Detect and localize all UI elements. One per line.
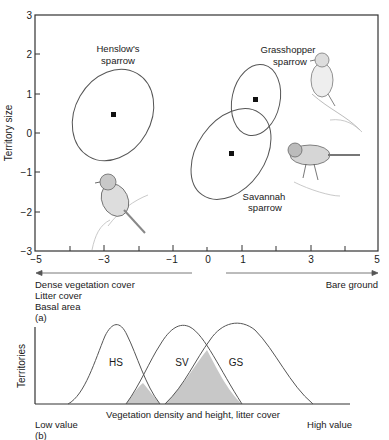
b-x-labels: Vegetation density and height, litter co… (35, 409, 352, 440)
panel-b: HS SV GS Territories Vegetation density … (16, 323, 352, 440)
x-tick-3: 3 (308, 254, 314, 265)
b-y-axis-label: Territories (16, 344, 27, 388)
left-label-3: Basal area (35, 301, 81, 312)
x-tick-m5: −5 (30, 254, 42, 265)
hs-label: HS (109, 357, 123, 368)
x-tick-m3: −3 (98, 254, 110, 265)
henslow-label-1: Henslow's (97, 43, 140, 54)
y-tick-0: 0 (26, 128, 32, 139)
x-tick-1: 1 (240, 254, 246, 265)
gs-label: GS (229, 357, 244, 368)
y-tick-labels: 3 2 1 0 −1 −2 −3 (21, 10, 33, 257)
x-tick-0: 0 (205, 254, 211, 265)
right-arrow-head-icon (372, 271, 378, 276)
panel-b-label: (b) (35, 430, 47, 440)
panel-a-label: (a) (35, 312, 47, 323)
savannah-label-2: sparrow (248, 202, 282, 213)
y-tick-3: 3 (26, 10, 32, 21)
y-axis-label: Territory size (3, 104, 14, 161)
y-tick-m1: −1 (21, 167, 33, 178)
savannah-sparrow-illustration (288, 143, 360, 196)
y-tick-1: 1 (26, 89, 32, 100)
x-tick-m1: −1 (166, 254, 178, 265)
savannah-center-marker (229, 151, 234, 156)
henslows-sparrow-illustration (92, 174, 148, 250)
x-tick-5: 5 (374, 254, 380, 265)
arrow-labels: Dense vegetation cover Litter cover Basa… (35, 279, 378, 323)
left-arrow-head-icon (36, 271, 42, 276)
sv-label: SV (175, 357, 189, 368)
figure: 3 2 1 0 −1 −2 −3 −5 −3 −1 0 1 3 5 Territ… (0, 0, 389, 440)
panel-a: 3 2 1 0 −1 −2 −3 −5 −3 −1 0 1 3 5 Territ… (3, 10, 380, 323)
y-tick-m2: −2 (21, 207, 33, 218)
grasshopper-label-1: Grasshopper (261, 44, 316, 55)
grasshopper-center-marker (253, 97, 258, 102)
right-label-1: Bare ground (326, 279, 378, 290)
species-labels: Henslow's sparrow Grasshopper sparrow Sa… (97, 43, 316, 213)
savannah-label-1: Savannah (243, 191, 286, 202)
left-label-1: Dense vegetation cover (35, 279, 135, 290)
y-tick-2: 2 (26, 49, 32, 60)
x-ticks (70, 245, 345, 251)
b-x-axis-label: Vegetation density and height, litter co… (106, 409, 280, 420)
y-ticks (35, 54, 40, 212)
low-value-label: Low value (35, 419, 78, 430)
x-tick-labels: −5 −3 −1 0 1 3 5 (30, 254, 380, 265)
henslow-center-marker (111, 112, 116, 117)
grasshopper-sparrow-illustration (310, 53, 362, 132)
high-value-label: High value (307, 419, 352, 430)
henslow-label-2: sparrow (101, 55, 135, 66)
left-label-2: Litter cover (35, 290, 82, 301)
curve-labels: HS SV GS (109, 357, 244, 368)
direction-arrows (36, 271, 378, 276)
grasshopper-label-2: sparrow (273, 56, 307, 67)
plot-frame (35, 15, 378, 251)
hs-sv-overlap (126, 383, 160, 404)
